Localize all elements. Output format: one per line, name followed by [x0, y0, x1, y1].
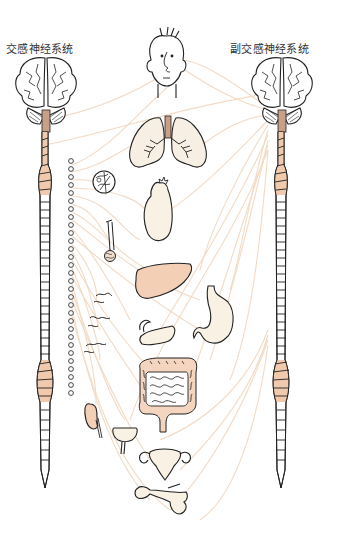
lungs-icon: [130, 116, 207, 167]
intestines-icon: [139, 358, 196, 432]
pancreas-icon: [140, 320, 175, 344]
heart-icon: [144, 177, 172, 241]
left-spinal-cord: [37, 132, 53, 488]
uterus-icon: [140, 449, 191, 480]
left-brain-icon: [16, 58, 77, 132]
right-brain-icon: [252, 58, 313, 132]
male-genital-icon: [135, 484, 187, 514]
autonomic-nervous-system-diagram: [0, 0, 338, 550]
stomach-icon: [193, 286, 233, 343]
liver-icon: [136, 263, 192, 298]
eye-gland-icon: [93, 171, 115, 193]
right-spinal-cord: [273, 132, 289, 488]
